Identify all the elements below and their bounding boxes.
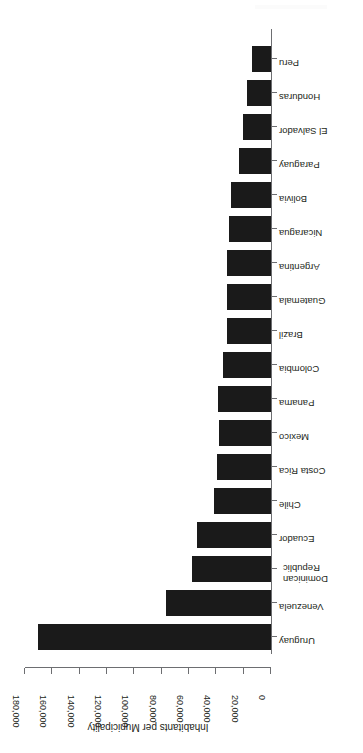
category-axis-tick	[272, 92, 277, 93]
value-axis-tick-label: 60,000	[175, 695, 185, 723]
bar	[227, 250, 271, 276]
category-axis-tick	[272, 194, 277, 195]
value-axis-tick-label: 80,000	[148, 695, 158, 723]
category-label: Argentina	[279, 262, 363, 273]
category-axis-tick	[272, 58, 277, 59]
clipped-caption-sliver	[255, 5, 327, 9]
value-axis-tick-label: 40,000	[202, 695, 212, 723]
category-label: Costa Rica	[279, 466, 363, 477]
value-axis-tick-label: 20,000	[230, 695, 240, 723]
value-axis-tick	[106, 668, 107, 674]
bar	[243, 114, 271, 140]
category-label: Nicaragua	[279, 228, 363, 239]
category-axis-tick	[272, 296, 277, 297]
value-axis-tick	[270, 668, 271, 674]
value-axis-line	[25, 667, 271, 668]
bar	[219, 420, 271, 446]
bar	[223, 352, 271, 378]
category-axis-tick	[272, 330, 277, 331]
category-axis-tick	[272, 568, 277, 569]
category-label: Guatemala	[279, 296, 363, 307]
category-axis-spine	[271, 29, 272, 654]
bar	[252, 46, 271, 72]
category-axis-tick	[272, 160, 277, 161]
value-axis-tick	[161, 668, 162, 674]
plot-area: 020,00040,00060,00080,000100,000120,0001…	[0, 0, 363, 753]
category-label: Peru	[279, 58, 363, 69]
bar	[217, 454, 271, 480]
bar	[227, 284, 271, 310]
value-axis-title: Inhabitants per Municipality	[25, 722, 271, 733]
bar	[231, 182, 271, 208]
category-label: Ecuador	[279, 534, 363, 545]
bar	[239, 148, 271, 174]
bar	[214, 488, 271, 514]
value-axis-tick	[24, 668, 25, 674]
category-axis-tick	[272, 636, 277, 637]
category-label: Chile	[279, 500, 363, 511]
category-axis-tick	[272, 432, 277, 433]
category-label: Venezuela	[279, 602, 363, 613]
bar	[229, 216, 271, 242]
bar	[247, 80, 271, 106]
category-axis-tick	[272, 398, 277, 399]
value-axis-tick	[215, 668, 216, 674]
value-axis-tick	[188, 668, 189, 674]
value-axis-tick-label: 180,000	[11, 695, 21, 728]
category-axis-tick	[272, 228, 277, 229]
value-axis-tick	[79, 668, 80, 674]
bar	[192, 556, 271, 582]
bar	[166, 590, 271, 616]
category-label: Uruguay	[279, 636, 363, 647]
category-label: El Salvador	[279, 126, 363, 137]
bar	[227, 318, 271, 344]
category-axis-tick	[272, 466, 277, 467]
bar	[197, 522, 271, 548]
category-axis-tick	[272, 364, 277, 365]
category-label: Dominican Republic	[283, 563, 347, 585]
category-label: Panama	[279, 398, 363, 409]
category-axis-tick	[272, 534, 277, 535]
bar-chart-figure: 020,00040,00060,00080,000100,000120,0001…	[0, 0, 363, 753]
category-label: Mexico	[279, 432, 363, 443]
value-axis-tick	[133, 668, 134, 674]
bar	[38, 624, 271, 650]
category-label: Honduras	[279, 92, 363, 103]
category-label: Colombia	[279, 364, 363, 375]
category-axis-tick	[272, 262, 277, 263]
category-label: Paraguay	[279, 160, 363, 171]
value-axis-tick-label: 0	[257, 695, 267, 700]
value-axis-tick	[243, 668, 244, 674]
category-label: Bolivia	[279, 194, 363, 205]
bar	[218, 386, 271, 412]
value-axis-tick	[51, 668, 52, 674]
category-axis-tick	[272, 602, 277, 603]
category-label: Brazil	[279, 330, 363, 341]
category-axis-tick	[272, 500, 277, 501]
category-axis-tick	[272, 126, 277, 127]
